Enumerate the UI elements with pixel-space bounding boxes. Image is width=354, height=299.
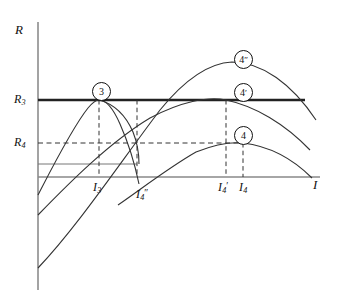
- curve-label-3: 3: [92, 82, 111, 101]
- x-tick-label-I4-prime: I4′: [218, 180, 228, 195]
- x-tick-label-I4-double-prime: I4″: [136, 187, 148, 202]
- curve-label-4: 4: [234, 126, 253, 145]
- x-tick-label-I3: I3: [93, 180, 101, 195]
- figure-svg: [0, 0, 354, 299]
- y-tick-label-R4: R4: [14, 135, 26, 150]
- curve-3: [38, 100, 139, 195]
- x-tick-label-I4: I4: [239, 180, 247, 195]
- envelope-arc: [99, 100, 139, 164]
- figure-canvas: R I R3 R4 I3 I4″ I4′ I4 3 4″ 4′ 4: [0, 0, 354, 299]
- y-axis-label: R: [15, 22, 23, 38]
- curve-label-4-prime: 4′: [234, 83, 253, 102]
- y-tick-label-R3: R3: [14, 92, 26, 107]
- x-axis-label: I: [313, 177, 317, 193]
- curve-label-4-double-prime: 4″: [234, 50, 253, 69]
- curve-4-double-prime: [38, 62, 316, 268]
- curve-4-prime: [38, 99, 310, 215]
